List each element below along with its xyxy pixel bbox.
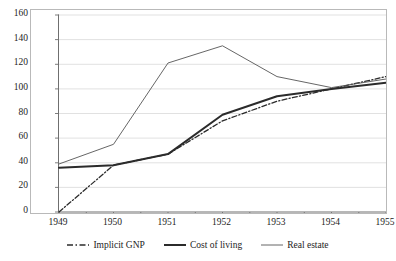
legend-item-real-estate[interactable]: Real estate [261,240,328,250]
legend-item-cost-of-living[interactable]: Cost of living [164,240,242,250]
x-tick-label: 1955 [365,217,396,227]
line-chart: 160140120100806040200 194919501951195219… [0,0,396,261]
x-axis-tick-labels: 1949195019511952195319541955 [0,0,396,261]
dash-dot-swatch [67,240,89,250]
x-tick-label: 1953 [256,217,296,227]
x-tick-label: 1949 [38,217,78,227]
thin-line-swatch [261,240,283,250]
legend-item-implicit-gnp[interactable]: Implicit GNP [67,240,144,250]
legend-label: Real estate [287,240,328,250]
x-tick-label: 1950 [93,217,133,227]
thick-line-swatch [164,240,186,250]
legend-label: Cost of living [190,240,242,250]
chart-legend: Implicit GNPCost of livingReal estate [0,236,396,254]
x-tick-label: 1951 [147,217,187,227]
x-tick-label: 1952 [202,217,242,227]
x-tick-label: 1954 [311,217,351,227]
legend-label: Implicit GNP [93,240,144,250]
